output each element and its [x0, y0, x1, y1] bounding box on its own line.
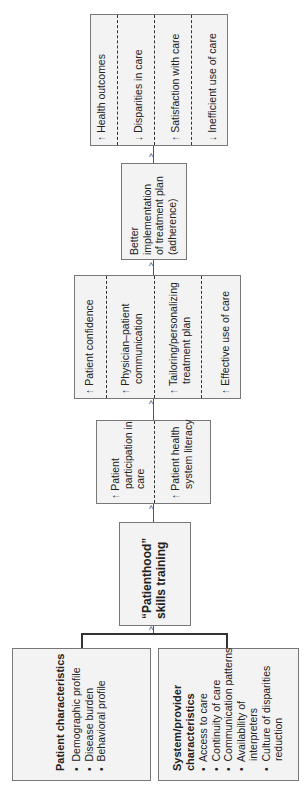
adherence-box: Better implementation of treatment plan … [121, 163, 187, 260]
bullet-item: • Demographic profile [70, 654, 83, 771]
outcome-item: ↓ Inefficient use of care [206, 33, 219, 141]
arrow-up-icon: ↑ [219, 389, 231, 394]
intermediate-item: ↑ Physician–patient communication [119, 304, 144, 394]
intermediate-item: ↑ Tailoring/personalizing treatment plan [167, 282, 192, 394]
arrow-down-icon: ↓ [132, 136, 144, 141]
arrowhead-icon: ^ [149, 505, 153, 514]
bullet-item: • Availability ofinterpreters [235, 648, 260, 771]
arrowhead-icon: ^ [149, 153, 153, 162]
bracket-drop-right [226, 633, 228, 648]
bracket-drop-left [81, 633, 83, 648]
system-characteristics-text: System/provider characteristics • Access… [171, 648, 285, 771]
bullet-item: • Access to care [197, 648, 210, 771]
bullet-item: • Continuity of care [210, 648, 223, 771]
bullet-icon: • [222, 767, 234, 771]
arrow-up-icon: ↑ [119, 389, 131, 394]
divider [154, 15, 155, 145]
divider [154, 421, 155, 503]
arrow-up-icon: ↑ [95, 136, 107, 141]
arrowhead-icon: ^ [149, 262, 153, 271]
arrow-up-icon: ↑ [169, 494, 181, 499]
bullet-icon: • [210, 767, 222, 771]
bullet-icon: • [197, 767, 209, 771]
bullet-icon: • [83, 767, 95, 771]
arrow-down-icon: ↓ [206, 136, 218, 141]
patient-characteristics-text: Patient characteristics • Demographic pr… [53, 654, 108, 771]
outcome-item: ↑ Health outcomes [95, 54, 108, 141]
arrow-up-icon: ↑ [169, 136, 181, 141]
participation-box: ↑ Patient participation in care ↑ Patien… [96, 420, 211, 504]
adherence-text: Better implementation of treatment plan … [128, 176, 178, 255]
arrow-up-icon: ↑ [83, 389, 95, 394]
participation-item: ↑ Patient health system literacy [169, 420, 194, 499]
bullet-item: • Disease burden [83, 654, 96, 771]
arrow-up-icon: ↑ [109, 494, 121, 499]
bullet-item: • Culture of disparitiesreduction [260, 648, 285, 771]
divider [117, 15, 118, 145]
bullet-icon: • [260, 767, 272, 771]
intermediate-item: ↑ Effective use of care [219, 291, 232, 394]
arrow-up-icon: ↑ [167, 389, 179, 394]
outcome-item: ↑ Satisfaction with care [169, 34, 182, 141]
bullet-icon: • [235, 767, 247, 771]
intermediate-item: ↑ Patient confidence [83, 299, 96, 394]
divider [154, 276, 155, 398]
training-title: “Patienthood” skills training [140, 538, 168, 619]
system-characteristics-box: System/provider characteristics • Access… [158, 648, 299, 781]
participation-item: ↑ Patient participation in care [109, 421, 147, 499]
divider [191, 15, 192, 145]
outcomes-box: ↑ Health outcomes ↓ Disparities in care … [90, 14, 228, 146]
divider [106, 276, 107, 398]
bracket-line [81, 633, 227, 635]
training-box: “Patienthood” skills training [119, 522, 191, 626]
bullet-icon: • [95, 767, 107, 771]
divider [201, 276, 202, 398]
bullet-item: • Behavioral profile [95, 654, 108, 771]
patient-characteristics-box: Patient characteristics • Demographic pr… [12, 648, 151, 781]
intermediate-box: ↑ Patient confidence ↑ Physician–patient… [74, 275, 241, 399]
outcome-item: ↓ Disparities in care [132, 49, 145, 141]
arrowhead-icon: ^ [149, 400, 153, 409]
bullet-item: • Communication patterns [222, 648, 235, 771]
bullet-icon: • [70, 767, 82, 771]
